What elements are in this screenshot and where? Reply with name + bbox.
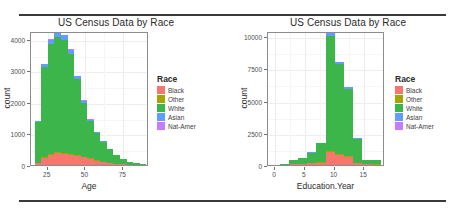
bar-segment-white	[344, 89, 353, 156]
y-axis-tick-mark	[27, 71, 30, 72]
bar-segment-black	[307, 163, 316, 165]
x-axis-tick-label: 75	[107, 171, 137, 178]
y-axis-tick-label: 0	[236, 163, 262, 170]
legend-swatch-icon	[395, 104, 403, 112]
histogram-bar	[100, 141, 107, 165]
plot-area	[267, 32, 384, 166]
y-axis-tick-mark	[27, 40, 30, 41]
histogram-bar	[298, 158, 307, 165]
legend-item-asian[interactable]: Asian	[395, 113, 434, 122]
legend-item-label: Nat-Amer	[168, 123, 196, 130]
legend-item-other[interactable]: Other	[395, 95, 434, 104]
legend-item-label: Black	[168, 87, 184, 94]
legend-swatch-icon	[157, 95, 165, 103]
legend-swatch-icon	[157, 104, 165, 112]
histogram-bar	[289, 160, 298, 165]
x-axis-title: Education.Year	[267, 181, 384, 191]
bar-segment-black	[100, 162, 107, 165]
x-axis-tick-mark	[122, 167, 123, 170]
x-axis-tick-label: 15	[348, 171, 378, 178]
bar-segment-white	[335, 64, 344, 154]
bar-segment-black	[372, 165, 381, 166]
histogram-bar	[326, 33, 335, 165]
y-axis-tick-label: 2500	[236, 130, 262, 137]
histogram-bar	[353, 138, 362, 165]
y-axis-tick-label: 1000	[0, 131, 25, 138]
y-axis-tick-mark	[264, 166, 267, 167]
legend-item-nat-amer[interactable]: Nat-Amer	[395, 122, 434, 131]
legend-item-nat-amer[interactable]: Nat-Amer	[157, 122, 196, 131]
bar-segment-black	[326, 152, 335, 165]
y-axis-tick-mark	[27, 103, 30, 104]
x-axis-title: Age	[30, 181, 148, 191]
histogram-bar	[81, 100, 88, 165]
legend-item-label: Other	[406, 96, 422, 103]
bar-segment-white	[307, 153, 316, 163]
legend-item-black[interactable]: Black	[157, 86, 196, 95]
legend-swatch-icon	[395, 113, 403, 121]
chart-title: US Census Data by Race	[232, 17, 464, 28]
y-axis-tick-label: 10000	[236, 34, 262, 41]
bar-segment-white	[326, 36, 335, 150]
bar-segment-black	[81, 157, 88, 165]
x-axis-tick-label: 50	[69, 171, 99, 178]
bar-segment-white	[100, 142, 107, 162]
bar-segment-black	[316, 163, 325, 165]
legend-item-label: White	[406, 105, 423, 112]
y-axis-tick-mark	[264, 37, 267, 38]
histogram-bar	[307, 152, 316, 165]
legend-swatch-icon	[157, 113, 165, 121]
x-axis-tick-label: 10	[319, 171, 349, 178]
histogram-bar	[316, 143, 325, 165]
legend-item-label: Other	[168, 96, 184, 103]
x-axis-tick-label: 0	[259, 171, 289, 178]
legend-item-other[interactable]: Other	[157, 95, 196, 104]
legend-title: Race	[157, 74, 196, 84]
histogram-bar	[280, 164, 289, 165]
legend-item-label: White	[168, 105, 185, 112]
y-axis-tick-label: 7500	[236, 66, 262, 73]
y-axis-title: count	[2, 73, 12, 123]
legend-item-white[interactable]: White	[157, 104, 196, 113]
histogram-bar	[140, 164, 147, 165]
legend: RaceBlackOtherWhiteAsianNat-Amer	[395, 74, 434, 131]
bar-segment-black	[344, 157, 353, 165]
bar-segment-white	[353, 139, 362, 163]
x-axis-tick-mark	[47, 167, 48, 170]
figure-bottom-rule	[19, 200, 446, 202]
histogram-bar	[344, 87, 353, 165]
bar-segment-white	[61, 40, 68, 152]
histogram-bar	[120, 159, 127, 165]
y-axis-tick-mark	[264, 134, 267, 135]
legend-item-label: Nat-Amer	[406, 123, 434, 130]
bar-segment-black	[362, 164, 371, 165]
chart-panel-education-year: US Census Data by Race 02500500075001000…	[232, 16, 464, 200]
legend-item-black[interactable]: Black	[395, 86, 434, 95]
x-axis-tick-mark	[274, 167, 275, 170]
histogram-bar	[41, 64, 48, 165]
bars-layer	[31, 33, 147, 165]
legend-item-label: Black	[406, 87, 422, 94]
histogram-bar	[335, 62, 344, 165]
bar-segment-black	[120, 164, 127, 165]
x-axis-tick-label: 5	[289, 171, 319, 178]
bar-segment-black	[298, 164, 307, 165]
bar-segment-black	[41, 158, 48, 165]
legend-swatch-icon	[157, 122, 165, 130]
y-axis-tick-label: 4000	[0, 36, 25, 43]
legend-swatch-icon	[395, 86, 403, 94]
legend-swatch-icon	[395, 122, 403, 130]
x-axis-tick-label: 25	[32, 171, 62, 178]
y-axis-tick-label: 0	[0, 163, 25, 170]
bar-segment-white	[41, 67, 48, 157]
legend-swatch-icon	[157, 86, 165, 94]
bars-layer	[268, 33, 383, 165]
x-axis-tick-mark	[363, 167, 364, 170]
bar-segment-white	[81, 103, 88, 157]
legend: RaceBlackOtherWhiteAsianNat-Amer	[157, 74, 196, 131]
legend-item-white[interactable]: White	[395, 104, 434, 113]
legend-item-label: Asian	[168, 114, 184, 121]
y-axis-tick-mark	[264, 102, 267, 103]
y-axis-tick-mark	[27, 134, 30, 135]
legend-item-asian[interactable]: Asian	[157, 113, 196, 122]
